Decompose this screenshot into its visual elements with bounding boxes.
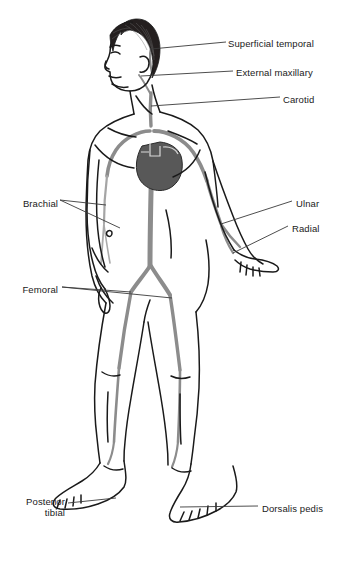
artery-dorsalis-pedis-left: [108, 442, 114, 464]
body-figure-svg: [0, 0, 345, 561]
anatomy-diagram: Superficial temporal External maxillary …: [0, 0, 345, 561]
shin-left: [107, 392, 108, 442]
foot-right: [169, 464, 236, 522]
label-carotid: Carotid: [283, 94, 314, 105]
label-superficial-temporal: Superficial temporal: [228, 38, 314, 49]
leg-right-inner: [148, 322, 168, 465]
eye: [111, 52, 120, 54]
neck: [130, 91, 134, 114]
leader-brachial-b: [60, 200, 120, 228]
leg-right-outer: [191, 312, 199, 464]
label-brachial: Brachial: [18, 198, 58, 209]
artery-carotid: [150, 93, 151, 126]
toes-right: [180, 503, 216, 521]
artery-posterior-tibial-left: [114, 368, 119, 442]
leader-radial: [233, 226, 288, 253]
artery-femoral-left: [119, 292, 131, 368]
leader-superficial-temporal: [151, 42, 226, 49]
label-radial: Radial: [292, 223, 320, 234]
ear: [140, 56, 149, 72]
heart: [136, 142, 182, 191]
artery-femoral-right: [170, 295, 180, 370]
mouth: [109, 76, 121, 78]
label-ulnar: Ulnar: [296, 198, 319, 209]
pec-left: [95, 145, 134, 168]
ankle-right: [172, 468, 191, 472]
leg-left-outer: [95, 303, 106, 463]
hip-right: [196, 240, 209, 312]
ankle-left: [104, 466, 123, 470]
leg-left-inner: [124, 322, 144, 461]
artery-brachial-left: [104, 176, 107, 223]
leader-lines: [60, 42, 292, 507]
artery-iliac-right: [151, 266, 170, 295]
shin-right: [180, 394, 181, 444]
artery-external-maxillary: [139, 75, 150, 93]
label-femoral: Femoral: [18, 284, 58, 295]
groin: [144, 300, 150, 322]
body-outline: [53, 22, 278, 522]
artery-dorsalis-pedis-right: [172, 442, 178, 467]
abdomen-line: [166, 210, 171, 258]
neck-back: [152, 85, 160, 112]
torso-left: [86, 114, 134, 303]
leader-dorsalis-pedis: [180, 506, 258, 507]
label-external-maxillary: External maxillary: [236, 67, 313, 78]
navel: [107, 231, 113, 237]
label-posterior-tibial: Posterior tibial: [10, 496, 65, 518]
chin: [112, 84, 128, 87]
leader-carotid: [151, 97, 280, 106]
leader-femoral-b: [62, 287, 172, 298]
label-dorsalis-pedis: Dorsalis pedis: [262, 503, 323, 514]
leader-posterior-tibial: [68, 498, 116, 503]
leader-brachial-a: [60, 200, 106, 205]
artery-iliac-left: [131, 266, 150, 292]
